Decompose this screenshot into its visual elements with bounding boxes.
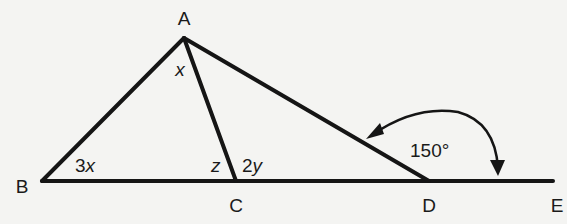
- angle-label-ADE: 150°: [410, 140, 449, 161]
- segment-AB: [42, 38, 184, 181]
- point-label-A: A: [178, 8, 191, 29]
- point-label-C: C: [229, 195, 243, 216]
- angle-label-ACB: z: [210, 155, 221, 176]
- diagram-svg: A B C D E x 3x z 2y 150°: [0, 0, 567, 224]
- segment-AC: [184, 38, 236, 181]
- arrowhead-left-icon: [366, 123, 384, 139]
- point-label-D: D: [422, 195, 436, 216]
- geometry-diagram: A B C D E x 3x z 2y 150°: [0, 0, 567, 224]
- segment-AD: [184, 38, 429, 181]
- point-label-E: E: [551, 195, 564, 216]
- arrowhead-right-icon: [490, 160, 505, 176]
- angle-label-ACD: 2y: [242, 155, 264, 176]
- angle-label-ABC: 3x: [75, 155, 97, 176]
- angle-label-BAC: x: [174, 59, 186, 80]
- point-label-B: B: [16, 176, 29, 197]
